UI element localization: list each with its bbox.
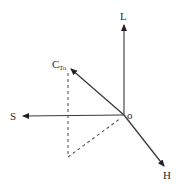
- cto-vector-arrow: [71, 69, 124, 115]
- cto-label-sub: To: [59, 64, 67, 72]
- projection-diagonal-dashed: [68, 118, 121, 157]
- h-axis-label: H: [163, 169, 171, 181]
- s-axis-label: S: [10, 110, 16, 122]
- vector-diagram: L S H o C To: [0, 0, 183, 188]
- l-axis-label: L: [120, 10, 127, 22]
- h-axis-arrow: [124, 115, 164, 166]
- origin-label: o: [127, 109, 133, 121]
- s-axis-arrow: [23, 115, 124, 116]
